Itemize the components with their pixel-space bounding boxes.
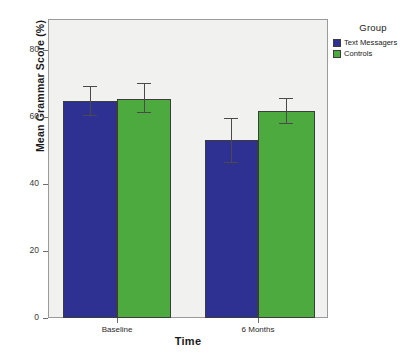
errorbar-stem	[286, 98, 287, 124]
y-tick-label-20: 20	[30, 245, 39, 255]
y-tick-mark-40	[43, 184, 48, 185]
y-tick-mark-20	[43, 251, 48, 252]
bar-baseline-text-messagers	[63, 101, 117, 318]
y-tick-mark-80	[43, 50, 48, 51]
x-axis-title: Time	[48, 335, 328, 347]
y-axis-title: Mean Grammar Score (%)	[34, 0, 46, 186]
y-tick-mark-60	[43, 117, 48, 118]
y-tick-label-0: 0	[34, 312, 39, 322]
legend-label-controls: Controls	[344, 49, 372, 58]
y-tick-label-60: 60	[30, 111, 39, 121]
legend-swatch-controls	[333, 50, 341, 58]
errorbar-cap-bottom	[279, 123, 293, 124]
legend-swatch-text-messagers	[333, 39, 341, 47]
legend-title: Group	[335, 22, 411, 33]
errorbar-stem	[144, 83, 145, 113]
errorbar-6months-controls	[279, 98, 293, 124]
errorbar-cap-bottom	[83, 115, 97, 116]
errorbar-baseline-controls	[137, 83, 151, 113]
bar-chart: Mean Grammar Score (%) 80 60 40 20 0	[0, 0, 411, 356]
legend-item-text-messagers[interactable]: Text Messagers	[333, 38, 411, 47]
y-tick-label-80: 80	[30, 44, 39, 54]
legend: Group Text Messagers Controls	[333, 22, 411, 60]
errorbar-stem	[90, 86, 91, 116]
x-tick-label-baseline: Baseline	[57, 325, 177, 334]
errorbar-baseline-text-messagers	[83, 86, 97, 116]
legend-item-controls[interactable]: Controls	[333, 49, 411, 58]
x-tick-mark-baseline	[117, 318, 118, 323]
bar-baseline-controls	[117, 99, 171, 318]
x-tick-mark-6months	[258, 318, 259, 323]
bar-6months-controls	[258, 111, 315, 318]
errorbar-cap-bottom	[224, 162, 238, 163]
bar-6months-text-messagers	[205, 140, 258, 318]
errorbar-6months-text-messagers	[224, 118, 238, 163]
x-tick-label-6months: 6 Months	[198, 325, 318, 334]
legend-label-text-messagers: Text Messagers	[344, 38, 397, 47]
y-tick-label-40: 40	[30, 178, 39, 188]
errorbar-cap-bottom	[137, 112, 151, 113]
errorbar-stem	[231, 118, 232, 163]
y-tick-mark-0	[43, 318, 48, 319]
